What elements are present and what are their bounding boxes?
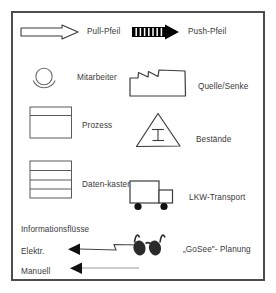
inventory-label: Bestände xyxy=(196,135,231,145)
legend-panel: Pull-Pfeil Push-Pfeil Mitarbeiter xyxy=(11,11,265,281)
factory-icon xyxy=(128,65,188,97)
truck-icon xyxy=(129,180,181,214)
operator-circle-icon xyxy=(30,65,60,93)
information-flows-heading: Informationsflüsse xyxy=(21,225,89,235)
straight-arrow-left-icon xyxy=(61,260,141,276)
electronic-flow-label: Elektr. xyxy=(21,247,44,257)
data-box-label: Daten-kasten xyxy=(82,180,132,190)
operator-label: Mitarbeiter xyxy=(77,73,117,83)
data-box-icon xyxy=(29,160,73,199)
pull-arrow-label: Pull-Pfeil xyxy=(87,27,120,37)
inventory-triangle-icon xyxy=(135,112,181,148)
striped-arrow-right-icon xyxy=(131,24,181,40)
push-arrow-label: Push-Pfeil xyxy=(188,27,226,37)
process-box-icon xyxy=(29,106,73,139)
manual-flow-label: Manuell xyxy=(21,267,50,277)
truck-label: LKW-Transport xyxy=(189,193,245,203)
process-label: Prozess xyxy=(82,121,112,131)
source-sink-label: Quelle/Senke xyxy=(198,82,248,92)
gosee-label: „GoSee"- Planung xyxy=(183,245,251,255)
outlined-arrow-right-icon xyxy=(20,24,80,40)
glasses-icon xyxy=(129,229,171,259)
